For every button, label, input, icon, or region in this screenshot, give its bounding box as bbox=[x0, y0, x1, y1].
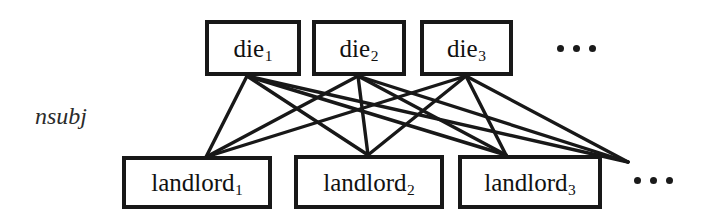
node-landlord-1[interactable]: landlord1 bbox=[122, 156, 272, 209]
node-landlord-1-label: landlord1 bbox=[151, 170, 243, 195]
edge-die2-landlord2 bbox=[358, 76, 368, 155]
top-row-ellipsis bbox=[557, 45, 596, 52]
node-die-1-label: die1 bbox=[234, 36, 273, 61]
ellipsis-dot bbox=[557, 45, 564, 52]
node-landlord-2[interactable]: landlord2 bbox=[294, 155, 444, 209]
edge-die1-landlord2 bbox=[247, 76, 368, 155]
node-die-3[interactable]: die3 bbox=[420, 20, 513, 76]
node-die-2[interactable]: die2 bbox=[312, 20, 406, 76]
node-landlord-2-label: landlord2 bbox=[323, 170, 415, 195]
node-die-3-label: die3 bbox=[447, 36, 486, 61]
ellipsis-dot bbox=[589, 45, 596, 52]
bottom-row-ellipsis bbox=[634, 177, 673, 184]
diagram-canvas: die1 die2 die3 nsubj landlord1 landlord2… bbox=[0, 0, 701, 224]
ellipsis-dot bbox=[650, 177, 657, 184]
node-die-1[interactable]: die1 bbox=[205, 20, 301, 76]
ellipsis-dot bbox=[634, 177, 641, 184]
ellipsis-dot bbox=[666, 177, 673, 184]
node-landlord-3[interactable]: landlord3 bbox=[458, 155, 602, 209]
node-die-2-label: die2 bbox=[340, 36, 379, 61]
node-landlord-3-label: landlord3 bbox=[484, 170, 576, 195]
ellipsis-dot bbox=[573, 45, 580, 52]
edge-relation-label: nsubj bbox=[35, 103, 87, 130]
